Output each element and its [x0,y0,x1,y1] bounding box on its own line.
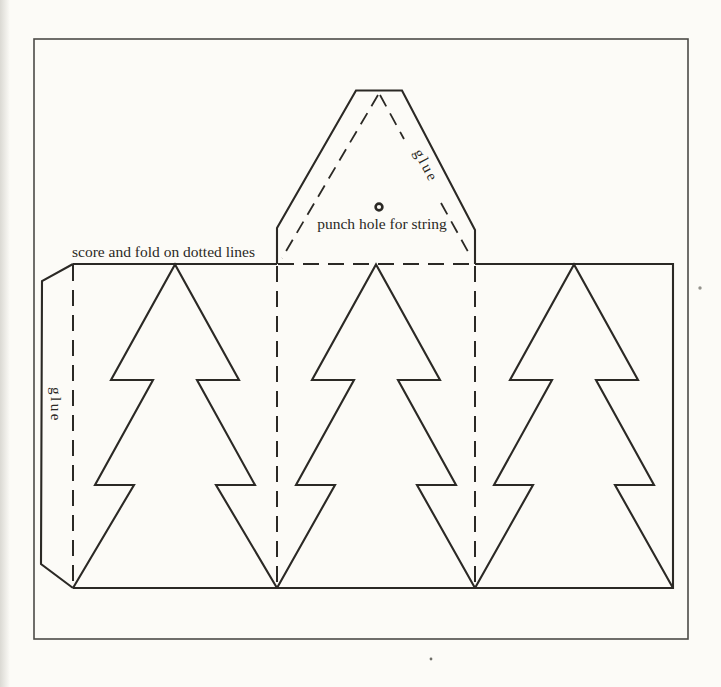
cut-lines-group [41,91,673,589]
scan-speck [430,658,433,661]
tree-outline-right [475,265,673,589]
fold-instruction-label: score and fold on dotted lines [72,243,255,260]
flap-glue-label: glue [411,146,442,185]
flap-glue-margin-dash-left [282,95,378,258]
flap-glue-margin-dash-right-upper [380,95,404,139]
scan-speck [698,286,701,289]
tree-outline-left [73,265,277,589]
main-rectangle-outline [73,264,673,588]
hanging-flap-outline [277,91,475,265]
tree-outline-middle [277,265,475,589]
punch-hole-label: punch hole for string [317,215,447,232]
scanned-page: score and fold on dotted lines punch hol… [0,0,721,687]
punch-hole-marker [376,204,383,211]
tab-glue-label: glue [48,387,64,423]
glue-tab-outline [41,264,73,588]
tree-ornament-template-diagram: score and fold on dotted lines punch hol… [0,0,721,687]
page-border [34,39,688,639]
